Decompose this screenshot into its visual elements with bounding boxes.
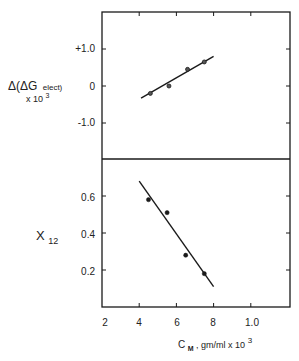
xtick-label-1: 2 [102,317,108,328]
data-point [202,60,206,64]
top-ylabel: Δ(ΔG elect) x 10 3 [8,79,63,104]
xlabel-rest: , gm/ml x 10 [196,340,245,350]
xlabel: C M , gm/ml x 10 3 [178,336,253,353]
top-ytick-label-1: +1.0 [75,43,95,54]
bottom-ylabel: X 12 [36,228,58,246]
svg-text:Δ(ΔG elect): Δ(ΔG elect) [8,79,63,93]
data-point [165,211,169,215]
top-ytick-label-3: -1.0 [78,117,96,128]
bottom-ylabel-sub: 12 [48,236,58,246]
data-point [167,84,171,88]
xlabel-sub: M [188,345,194,352]
data-point [148,91,152,95]
bottom-ytick-label-1: 0.6 [81,192,95,203]
data-point [184,253,188,257]
bottom-ytick-label-3: 0.2 [81,266,95,277]
xlabel-exp: 3 [248,336,253,345]
xtick-label-3: 6 [174,317,180,328]
xtick-label-4: 8 [210,317,216,328]
top-ytick-label-2: 0 [89,81,95,92]
svg-text:x 10 3: x 10 3 [26,92,50,104]
data-point [146,198,150,202]
bottom-ylabel-main: X [36,228,45,243]
xtick-label-2: 4 [136,317,142,328]
top-ylabel-sub: elect) [43,83,63,92]
xlabel-main: C [178,339,185,350]
stacked-scatter-chart: +1.0 0 -1.0 0.6 0.4 0.2 2 4 6 8 1.0 Δ(ΔG… [0,0,299,361]
top-ylabel-main: Δ(ΔG [8,79,37,93]
fit-line [139,181,213,286]
top-ylabel-line2: x 10 [26,94,43,104]
bottom-ytick-label-2: 0.4 [81,229,95,240]
bottom-panel [139,181,213,286]
xtick-label-5: 1.0 [245,317,259,328]
data-point [202,272,206,276]
data-point [186,67,190,71]
top-ylabel-exp: 3 [46,92,50,99]
top-panel [141,56,214,98]
